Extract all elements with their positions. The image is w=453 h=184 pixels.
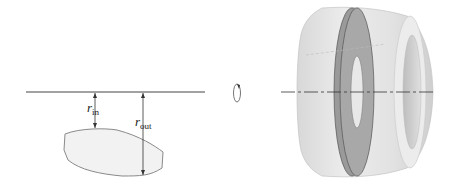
rotation-arrow-icon [234, 84, 241, 102]
left-panel: rin rout [26, 92, 205, 176]
cross-section-region [64, 129, 163, 176]
r-out-label: rout [135, 114, 152, 131]
diagram-canvas: rin rout [0, 0, 453, 184]
r-in-label: rin [87, 100, 100, 117]
